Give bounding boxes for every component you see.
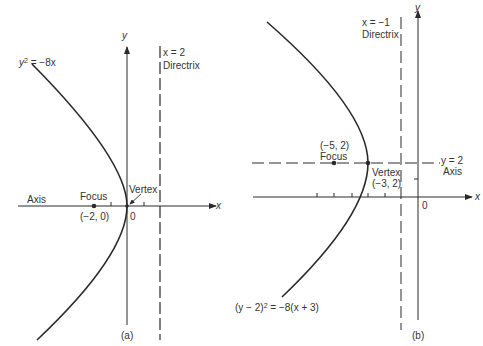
axis-label-a: Axis	[27, 194, 46, 205]
vertex-coords-b: (−3, 2)	[372, 178, 401, 189]
directrix-label-b: Directrix	[362, 29, 399, 40]
parabola-curve-a	[32, 64, 127, 340]
directrix-equation-b: x = −1	[362, 17, 390, 28]
focus-coords-a: (−2, 0)	[80, 211, 109, 222]
y-axis-label-a: y	[122, 30, 127, 41]
x-axis-label-b: x	[475, 191, 480, 202]
directrix-equation-a: x = 2	[163, 47, 185, 58]
vertex-pointer-a	[130, 194, 141, 204]
parabola-curve-b	[267, 22, 368, 297]
vertex-point-a	[125, 204, 129, 208]
parabola-figure	[0, 0, 483, 346]
x-axis-label-a: x	[216, 200, 221, 211]
origin-label-b: 0	[422, 200, 428, 211]
equation-label-a: y2 = −8x	[19, 57, 56, 68]
origin-label-a: 0	[130, 211, 136, 222]
vertex-label-b: Vertex	[372, 167, 400, 178]
caption-a: (a)	[121, 330, 133, 341]
panel-a	[18, 46, 216, 340]
axis-equation-b: y = 2	[441, 155, 463, 166]
focus-point-a	[92, 204, 97, 209]
y-axis-label-b: y	[415, 2, 420, 13]
directrix-label-a: Directrix	[163, 60, 200, 71]
equation-label-b: (y − 2)2 = −8(x + 3)	[235, 302, 319, 313]
vertex-label-a: Vertex	[129, 184, 157, 195]
vertex-point-b	[366, 161, 371, 166]
axis-label-b: Axis	[443, 166, 462, 177]
caption-b: (b)	[412, 330, 424, 341]
focus-coords-b: (−5, 2)	[320, 140, 349, 151]
focus-label-b: Focus	[320, 151, 347, 162]
focus-label-a: Focus	[80, 191, 107, 202]
panel-b	[252, 11, 472, 330]
